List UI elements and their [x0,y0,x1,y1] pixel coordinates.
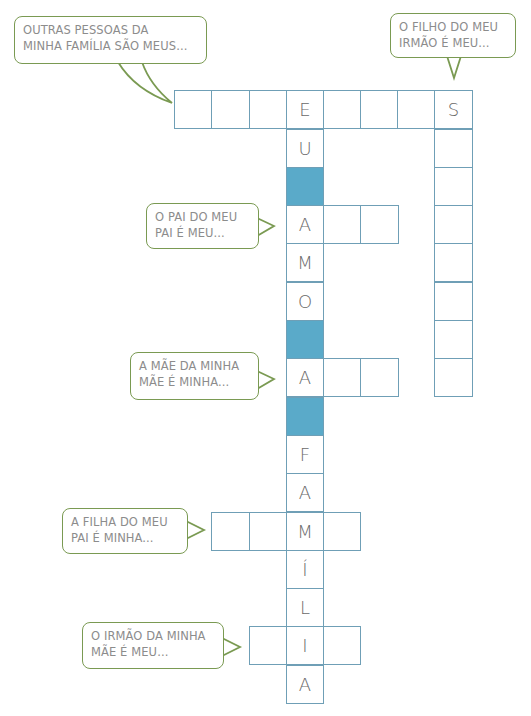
crossword-cell[interactable] [360,358,399,397]
clue-text: MÃE É MINHA... [139,374,250,390]
clue-text: PAI É MEU... [155,225,250,241]
crossword-cell[interactable] [211,512,250,551]
crossword-cell[interactable]: M [286,243,325,282]
crossword-cell[interactable]: A [286,205,325,244]
clue-text: O PAI DO MEU [155,209,250,225]
crossword-cell[interactable]: A [286,358,325,397]
clue-bubble-avo: O PAI DO MEU PAI É MEU... [146,203,259,249]
crossword-cell[interactable] [323,90,362,129]
crossword-cell[interactable]: S [434,90,473,129]
crossword-cell-shaded [286,320,325,359]
clue-text: MÃE É MEU... [91,644,215,660]
clue-bubble-irma: A FILHA DO MEU PAI É MINHA... [62,508,188,554]
crossword-cell[interactable]: L [286,588,325,627]
clue-bubble-tio: O IRMÃO DA MINHA MÃE É MEU... [82,622,224,669]
clue-text: PAI É MINHA... [71,530,179,546]
crossword-cell[interactable]: F [286,435,325,474]
crossword-cell[interactable] [434,320,473,359]
clue-text: OUTRAS PESSOAS DA [23,22,198,38]
crossword-cell[interactable] [323,205,362,244]
crossword-cell[interactable] [397,90,436,129]
crossword-cell[interactable] [323,512,362,551]
crossword-cell[interactable] [434,129,473,168]
crossword-cell[interactable]: O [286,282,325,321]
clue-bubble-outros: OUTRAS PESSOAS DA MINHA FAMÍLIA SÃO MEUS… [14,16,207,64]
crossword-cell[interactable] [434,282,473,321]
crossword-cell[interactable] [434,205,473,244]
crossword-cell-shaded [286,167,325,206]
clue-text: O IRMÃO DA MINHA [91,628,215,644]
clue-text: O FILHO DO MEU [399,19,507,35]
crossword-cell-shaded [286,397,325,436]
crossword-cell[interactable] [323,358,362,397]
crossword-cell[interactable] [249,512,288,551]
crossword-cell[interactable] [360,205,399,244]
crossword-cell[interactable] [174,90,213,129]
clue-text: A FILHA DO MEU [71,514,179,530]
clue-text: A MÃE DA MINHA [139,358,250,374]
crossword-cell[interactable] [211,90,250,129]
crossword-cell[interactable]: M [286,512,325,551]
crossword-cell[interactable]: A [286,473,325,512]
crossword-cell[interactable] [249,90,288,129]
clue-bubble-sobrinho: O FILHO DO MEU IRMÃO É MEU... [390,13,516,58]
crossword-cell[interactable] [434,167,473,206]
crossword-cell[interactable]: E [286,90,325,129]
crossword-cell[interactable]: U [286,129,325,168]
crossword-cell[interactable]: A [286,665,325,704]
crossword-cell[interactable] [249,626,288,665]
clue-text: IRMÃO É MEU... [399,35,507,51]
crossword-cell[interactable] [434,358,473,397]
clue-bubble-avo-f: A MÃE DA MINHA MÃE É MINHA... [130,352,259,400]
crossword-cell[interactable] [434,243,473,282]
crossword-cell[interactable] [323,626,362,665]
crossword-cell[interactable]: I [286,626,325,665]
crossword-cell[interactable]: Í [286,550,325,589]
crossword-cell[interactable] [360,90,399,129]
clue-text: MINHA FAMÍLIA SÃO MEUS... [23,38,198,54]
